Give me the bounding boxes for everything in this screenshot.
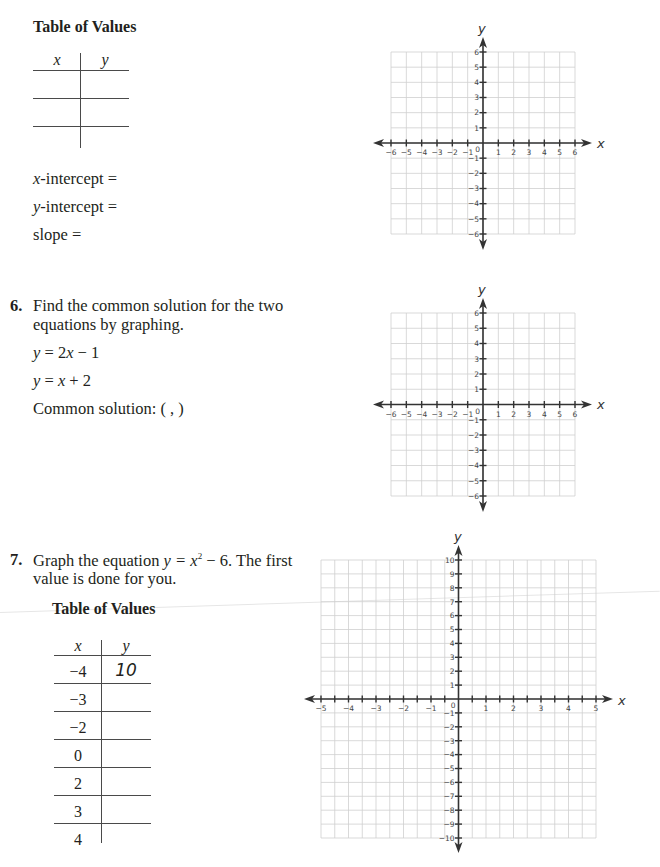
svg-text:−4: −4 [416, 148, 427, 157]
svg-text:3: 3 [474, 355, 479, 364]
svg-text:3: 3 [527, 148, 532, 157]
svg-text:6: 6 [474, 309, 479, 318]
svg-text:−1: −1 [468, 154, 479, 163]
svg-text:−6: −6 [385, 148, 396, 157]
svg-text:7: 7 [450, 598, 455, 607]
svg-text:−2: −2 [443, 723, 454, 732]
svg-text:4: 4 [566, 704, 571, 713]
svg-text:−4: −4 [468, 199, 479, 208]
svg-text:2: 2 [511, 704, 516, 713]
svg-text:−4: −4 [343, 704, 354, 713]
graph3: −5−4−3−2−112345−10−9−8−7−6−5−4−3−2−11234… [304, 529, 626, 853]
svg-text:5: 5 [474, 63, 479, 72]
svg-text:−5: −5 [443, 764, 454, 773]
svg-text:4: 4 [474, 339, 479, 348]
svg-text:−5: −5 [468, 477, 479, 486]
svg-text:5: 5 [557, 148, 562, 157]
svg-text:−6: −6 [468, 230, 479, 239]
y-axis-label: y [477, 282, 486, 297]
svg-text:−3: −3 [370, 704, 381, 713]
axes [379, 304, 586, 506]
y-axis-label: y [453, 529, 462, 544]
svg-text:9: 9 [450, 570, 455, 579]
svg-text:0: 0 [451, 701, 456, 710]
svg-text:1: 1 [484, 704, 489, 713]
svg-text:−3: −3 [431, 148, 442, 157]
svg-text:2: 2 [511, 148, 516, 157]
svg-text:−8: −8 [443, 806, 454, 815]
svg-text:−5: −5 [315, 704, 326, 713]
svg-text:−3: −3 [431, 410, 442, 419]
axes [310, 551, 607, 847]
svg-text:−7: −7 [443, 792, 454, 801]
svg-text:−4: −4 [468, 461, 479, 470]
svg-text:−1: −1 [443, 709, 454, 718]
svg-text:−1: −1 [425, 704, 436, 713]
svg-text:−5: −5 [468, 215, 479, 224]
svg-text:−2: −2 [447, 410, 458, 419]
svg-text:1: 1 [450, 681, 455, 690]
svg-text:−3: −3 [468, 184, 479, 193]
svg-text:6: 6 [573, 148, 578, 157]
svg-text:−5: −5 [401, 148, 412, 157]
svg-text:−1: −1 [468, 416, 479, 425]
x-axis-label: x [596, 397, 605, 412]
svg-text:5: 5 [474, 324, 479, 333]
svg-text:−6: −6 [468, 492, 479, 501]
svg-text:−5: −5 [401, 410, 412, 419]
svg-text:−2: −2 [398, 704, 409, 713]
svg-text:−9: −9 [443, 820, 454, 829]
svg-text:4: 4 [542, 410, 547, 419]
svg-text:−2: −2 [468, 169, 479, 178]
svg-text:10: 10 [445, 556, 455, 565]
svg-text:−2: −2 [447, 148, 458, 157]
svg-text:5: 5 [594, 704, 599, 713]
svg-text:8: 8 [450, 584, 455, 593]
axes [379, 43, 586, 244]
svg-text:4: 4 [542, 148, 547, 157]
svg-text:−3: −3 [468, 446, 479, 455]
svg-text:2: 2 [474, 370, 479, 379]
svg-text:−3: −3 [443, 737, 454, 746]
svg-text:3: 3 [539, 704, 544, 713]
svg-text:5: 5 [557, 410, 562, 419]
svg-text:1: 1 [474, 385, 479, 394]
svg-text:3: 3 [450, 653, 455, 662]
svg-text:0: 0 [475, 145, 480, 154]
x-axis-label: x [617, 693, 626, 708]
svg-text:2: 2 [450, 667, 455, 676]
svg-text:1: 1 [496, 410, 501, 419]
svg-text:2: 2 [474, 108, 479, 117]
svg-text:5: 5 [450, 625, 455, 634]
graph1: −6−5−4−3−2−1123456−6−5−4−3−2−11234560xy [373, 21, 605, 250]
x-axis-label: x [596, 136, 605, 151]
svg-text:−4: −4 [416, 410, 427, 419]
y-axis-label: y [477, 21, 486, 36]
svg-text:0: 0 [475, 407, 480, 416]
svg-text:4: 4 [450, 639, 455, 648]
svg-text:1: 1 [496, 148, 501, 157]
svg-text:3: 3 [527, 410, 532, 419]
svg-text:3: 3 [474, 93, 479, 102]
svg-text:6: 6 [474, 48, 479, 57]
svg-text:−6: −6 [385, 410, 396, 419]
svg-text:6: 6 [450, 611, 455, 620]
svg-text:−10: −10 [439, 834, 455, 843]
svg-text:4: 4 [474, 78, 479, 87]
svg-text:1: 1 [474, 124, 479, 133]
graph2: −6−5−4−3−2−1123456−6−5−4−3−2−11234560xy [373, 282, 605, 512]
svg-text:6: 6 [573, 410, 578, 419]
svg-text:−2: −2 [468, 431, 479, 440]
svg-text:−4: −4 [443, 750, 454, 759]
svg-text:−6: −6 [443, 778, 454, 787]
svg-text:2: 2 [511, 410, 516, 419]
